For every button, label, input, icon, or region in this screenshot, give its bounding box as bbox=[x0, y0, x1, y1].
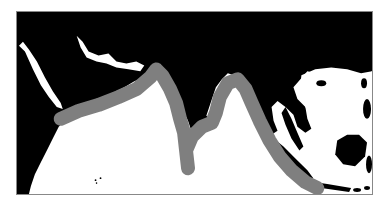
lesser-sunda-2 bbox=[364, 186, 370, 190]
island-dot bbox=[96, 182, 98, 184]
map-canvas bbox=[17, 12, 372, 194]
hainan bbox=[316, 80, 326, 86]
taiwan bbox=[361, 78, 367, 88]
map-frame bbox=[16, 11, 373, 195]
island-dot bbox=[95, 179, 97, 181]
island-dot bbox=[100, 177, 102, 179]
lesser-sunda-1 bbox=[353, 188, 361, 192]
philippines bbox=[363, 99, 371, 119]
sulawesi bbox=[366, 155, 372, 173]
